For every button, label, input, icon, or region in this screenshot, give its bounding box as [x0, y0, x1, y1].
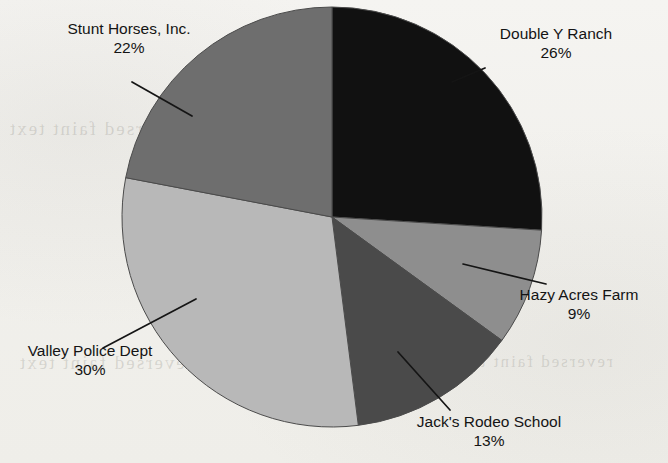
label-stunt-horses-name: Stunt Horses, Inc.: [67, 20, 190, 37]
label-double-y-ranch: Double Y Ranch 26%: [468, 25, 644, 63]
label-stunt-horses: Stunt Horses, Inc. 22%: [34, 20, 224, 58]
label-jacks-rodeo-school-name: Jack's Rodeo School: [417, 413, 561, 430]
label-double-y-ranch-name: Double Y Ranch: [500, 25, 612, 42]
label-stunt-horses-pct: 22%: [34, 39, 224, 58]
label-valley-police-dept-name: Valley Police Dept: [28, 342, 153, 359]
label-jacks-rodeo-school-pct: 13%: [392, 432, 586, 451]
label-double-y-ranch-pct: 26%: [468, 44, 644, 63]
pie-chart-page: reversed faint text reversed faint text …: [0, 0, 668, 463]
label-valley-police-dept-pct: 30%: [2, 361, 178, 380]
label-valley-police-dept: Valley Police Dept 30%: [2, 342, 178, 380]
label-jacks-rodeo-school: Jack's Rodeo School 13%: [392, 413, 586, 451]
label-hazy-acres-farm: Hazy Acres Farm 9%: [494, 286, 664, 324]
label-hazy-acres-farm-pct: 9%: [494, 305, 664, 324]
label-hazy-acres-farm-name: Hazy Acres Farm: [520, 286, 639, 303]
pie-chart: [0, 0, 668, 463]
